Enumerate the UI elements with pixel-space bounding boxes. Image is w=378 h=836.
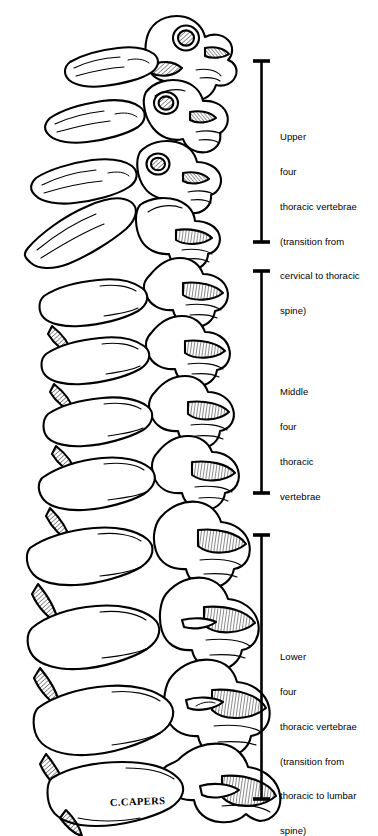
label-lower-line-6: spine)	[280, 825, 357, 836]
label-lower-four-thoracic: Lower four thoracic vertebrae (transitio…	[280, 628, 357, 836]
label-middle-four-thoracic: Middle four thoracic vertebrae	[280, 363, 321, 514]
label-middle-line-2: four	[280, 421, 321, 433]
label-upper-line-6: spine)	[280, 305, 360, 317]
label-lower-line-4: (transition from	[280, 756, 357, 768]
label-upper-line-3: thoracic vertebrae	[280, 201, 360, 213]
label-lower-line-2: four	[280, 686, 357, 698]
label-lower-line-3: thoracic vertebrae	[280, 721, 357, 733]
label-upper-line-1: Upper	[280, 131, 360, 143]
artist-signature: C.CAPERS	[110, 795, 166, 808]
label-upper-line-4: (transition from	[280, 236, 360, 248]
label-middle-line-4: vertebrae	[280, 491, 321, 503]
label-lower-line-1: Lower	[280, 651, 357, 663]
label-middle-line-1: Middle	[280, 386, 321, 398]
label-upper-line-2: four	[280, 166, 360, 178]
label-upper-four-thoracic: Upper four thoracic vertebrae (transitio…	[280, 108, 360, 328]
label-lower-line-5: thoracic to lumbar	[280, 790, 357, 802]
label-upper-line-5: cervical to thoracic	[280, 270, 360, 282]
label-middle-line-3: thoracic	[280, 456, 321, 468]
